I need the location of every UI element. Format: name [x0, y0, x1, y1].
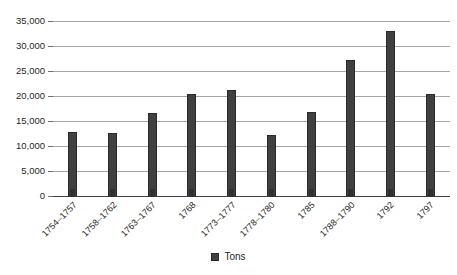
x-label-slot: 1797 — [410, 197, 450, 249]
x-axis-category-text: 1785 — [296, 200, 317, 221]
bar-slot — [212, 21, 252, 196]
y-axis-tick-label: 30,000 — [16, 41, 45, 51]
bar-1788-1790 — [346, 60, 355, 197]
x-axis-category-text: 1797 — [415, 200, 436, 221]
bar-series-tons — [53, 21, 450, 196]
y-axis-tick-label: 0 — [40, 191, 45, 201]
x-axis-category-text: 1768 — [177, 200, 198, 221]
x-axis-category-text: 1792 — [376, 200, 397, 221]
bar-slot — [53, 21, 93, 196]
x-label-slot: 1788–1790 — [331, 197, 371, 249]
y-axis-tick-label: 20,000 — [16, 91, 45, 101]
y-axis-tick-label: 5,000 — [21, 166, 45, 176]
bar-1768 — [187, 94, 196, 196]
bar-1754-1757 — [68, 132, 77, 196]
y-axis-tick-label: 10,000 — [16, 141, 45, 151]
legend-swatch-icon — [211, 253, 219, 261]
bar-1758-1762 — [108, 133, 117, 196]
bar-slot — [331, 21, 371, 196]
bar-slot — [410, 21, 450, 196]
x-label-slot: 1763–1767 — [132, 197, 172, 249]
bar-1785 — [307, 112, 316, 196]
bar-chart: 35,00030,00025,00020,00015,00010,0005,00… — [0, 0, 457, 275]
y-axis-tick-label: 25,000 — [16, 66, 45, 76]
y-axis-tick-label: 35,000 — [16, 16, 45, 26]
legend-label-tons: Tons — [224, 252, 245, 262]
x-label-slot: 1778–1780 — [252, 197, 292, 249]
chart-legend: Tons — [0, 252, 457, 262]
bar-1773-1777 — [227, 90, 236, 196]
bar-1797 — [426, 94, 435, 197]
x-label-slot: 1792 — [371, 197, 411, 249]
bar-1778-1780 — [267, 135, 276, 197]
bar-1792 — [386, 31, 395, 197]
plot-area — [53, 21, 450, 196]
y-axis-tick-label: 15,000 — [16, 116, 45, 126]
bar-1763-1767 — [148, 113, 157, 196]
x-axis-labels: 1754–17571758–17621763–176717681773–1777… — [53, 197, 450, 249]
